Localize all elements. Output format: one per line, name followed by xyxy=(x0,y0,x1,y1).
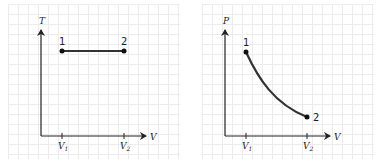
tv-diagram: T V V1 V2 1 2 xyxy=(39,16,158,152)
pv-x-axis-label: V xyxy=(334,132,342,142)
pv-tick-label-v2: V2 xyxy=(303,141,314,152)
tv-point-2 xyxy=(122,49,127,54)
pv-point-1 xyxy=(244,50,249,55)
tv-tick-label-v1: V1 xyxy=(58,141,68,152)
pv-tick-label-v1: V1 xyxy=(242,141,252,152)
tv-point-1-label: 1 xyxy=(59,36,65,47)
diagrams-canvas: T V V1 V2 1 2 P V V1 V2 1 2 xyxy=(0,0,385,165)
pv-point-1-label: 1 xyxy=(243,37,249,48)
pv-point-2-label: 2 xyxy=(313,112,319,123)
tv-point-1 xyxy=(60,49,65,54)
tv-x-axis-label: V xyxy=(150,132,158,142)
pv-diagram: P V V1 V2 1 2 xyxy=(222,16,342,152)
tv-tick-label-v2: V2 xyxy=(120,141,131,152)
tv-y-axis-label: T xyxy=(39,16,46,26)
pv-y-axis-label: P xyxy=(222,16,230,26)
pv-point-2 xyxy=(305,115,310,120)
tv-point-2-label: 2 xyxy=(121,36,127,47)
pv-isotherm-curve xyxy=(246,52,307,117)
